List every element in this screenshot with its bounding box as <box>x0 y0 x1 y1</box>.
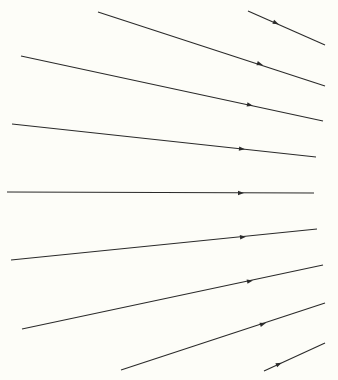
ray-line <box>12 124 316 157</box>
ray-line <box>7 192 314 193</box>
ray-line <box>248 11 325 45</box>
ray-line <box>264 343 325 371</box>
rays-group <box>7 11 325 371</box>
ray-line <box>121 303 325 370</box>
ray-line <box>21 56 323 121</box>
arrowhead-icon <box>240 235 246 240</box>
ray-line <box>22 265 323 329</box>
arrowhead-icon <box>247 102 254 108</box>
ray-line <box>11 229 317 260</box>
arrowhead-icon <box>272 20 279 26</box>
ray-diagram <box>0 0 338 380</box>
arrowhead-icon <box>239 146 245 151</box>
arrowhead-icon <box>275 361 282 368</box>
ray-line <box>98 12 325 86</box>
arrowhead-icon <box>238 191 244 195</box>
arrowhead-icon <box>247 278 254 284</box>
arrowhead-icon <box>259 321 266 327</box>
